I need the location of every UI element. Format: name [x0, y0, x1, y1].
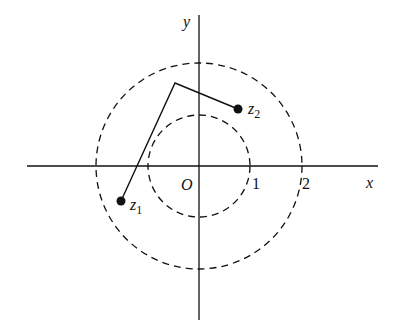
y-axis-label: y [181, 13, 191, 31]
point-z1 [117, 197, 126, 206]
tick-label-2: 2 [302, 175, 310, 192]
path-z1-to-z2 [121, 83, 238, 201]
x-axis-label: x [365, 174, 373, 191]
complex-plane-diagram: y x O 1 2 z1 z2 [0, 0, 395, 331]
point-z2 [234, 105, 243, 114]
diagram-canvas: y x O 1 2 z1 z2 [0, 0, 395, 331]
z1-label: z1 [129, 196, 142, 217]
z1-label-subscript: 1 [136, 203, 142, 217]
z2-label-subscript: 2 [254, 107, 260, 121]
origin-label: O [181, 176, 193, 193]
z2-label: z2 [247, 100, 260, 121]
tick-label-1: 1 [252, 175, 260, 192]
